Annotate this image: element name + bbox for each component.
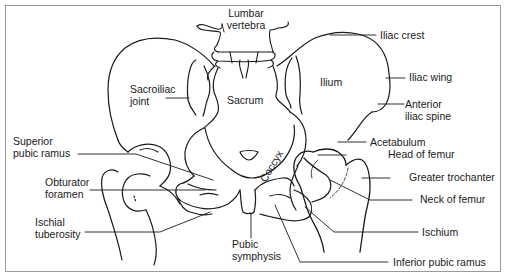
- label-obturator-foramen: Obturator foramen: [45, 176, 89, 200]
- label-iliac-crest: Iliac crest: [380, 29, 424, 41]
- label-ischium: Ischium: [422, 226, 458, 238]
- right-femur-drawing: [294, 149, 370, 252]
- label-lumbar-vertebra: Lumbar vertebra: [218, 7, 274, 31]
- label-superior-pubic-ramus: Superior pubic ramus: [13, 135, 70, 159]
- label-head-of-femur: Head of femur: [388, 148, 455, 160]
- left-femur-drawing: [101, 170, 180, 265]
- label-sacrum: Sacrum: [227, 94, 263, 106]
- label-pubic-symphysis: Pubic symphysis: [232, 238, 281, 262]
- label-anterior-iliac-spine: Anterior iliac spine: [405, 98, 451, 122]
- label-acetabulum: Acetabulum: [370, 136, 425, 148]
- label-iliac-wing: Iliac wing: [409, 71, 452, 83]
- pelvis-diagram: Lumbar vertebra Iliac crest Iliac wing A…: [0, 0, 510, 280]
- label-ischial-tuberosity: Ischial tuberosity: [35, 216, 81, 240]
- label-inferior-pubic-ramus: Inferior pubic ramus: [393, 256, 486, 268]
- left-hip-socket-drawing: [128, 144, 250, 215]
- label-greater-trochanter: Greater trochanter: [409, 171, 495, 183]
- label-ilium: Ilium: [320, 76, 342, 88]
- label-sacroiliac-joint: Sacroiliac joint: [130, 83, 176, 107]
- label-neck-of-femur: Neck of femur: [420, 193, 485, 205]
